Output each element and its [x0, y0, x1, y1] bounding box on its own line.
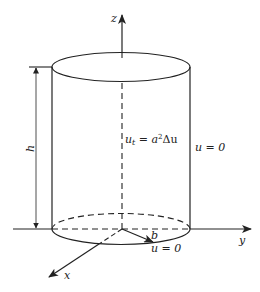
height-label: h — [24, 145, 37, 152]
x-axis-label: x — [64, 269, 71, 282]
pde-rhs-op: Δu — [163, 133, 178, 146]
pde-lhs-var: u — [125, 133, 132, 146]
lateral-boundary-condition: u = 0 — [195, 141, 225, 154]
pde-equals: = — [135, 133, 151, 146]
radius-arrow — [122, 229, 153, 242]
top-face-ellipse — [52, 53, 190, 82]
cylinder-diagram: z y x b h ut = a2Δu u = 0 u = 0 — [0, 0, 260, 292]
bottom-boundary-condition: u = 0 — [151, 242, 181, 255]
pde-equation: ut = a2Δu — [125, 133, 178, 147]
radius-label: b — [151, 229, 158, 242]
z-axis-label: z — [110, 12, 117, 25]
y-axis-label: y — [238, 234, 246, 247]
bottom-ellipse-back — [52, 213, 190, 229]
